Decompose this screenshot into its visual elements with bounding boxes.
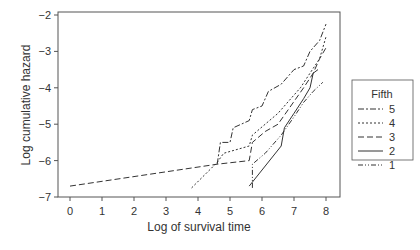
legend-label-1: 1: [389, 159, 395, 171]
y-tick-label: −2: [38, 9, 51, 21]
x-tick-label: 7: [291, 205, 297, 217]
series-line-3: [70, 48, 326, 186]
x-tick-label: 5: [227, 205, 233, 217]
x-tick-label: 4: [195, 205, 201, 217]
x-tick-label: 3: [163, 205, 169, 217]
plot-frame: [58, 12, 340, 197]
legend-label-4: 4: [389, 117, 395, 129]
km-log-log-chart: 012345678 −7−6−5−4−3−2 Log of survival t…: [0, 0, 420, 250]
y-tick-label: −4: [38, 82, 51, 94]
x-tick-label: 1: [99, 205, 105, 217]
legend-title: Fifth: [371, 88, 392, 100]
legend: Fifth 54321: [352, 80, 413, 171]
x-tick-label: 8: [323, 205, 329, 217]
series-line-5: [217, 24, 326, 164]
x-axis: 012345678: [67, 197, 329, 217]
x-tick-label: 2: [131, 205, 137, 217]
y-tick-label: −5: [38, 118, 51, 130]
x-axis-label: Log of survival time: [147, 220, 251, 234]
legend-label-2: 2: [389, 145, 395, 157]
y-tick-label: −6: [38, 155, 51, 167]
y-tick-label: −7: [38, 191, 51, 203]
plot-area: [58, 12, 340, 197]
y-tick-label: −3: [38, 45, 51, 57]
x-tick-label: 0: [67, 205, 73, 217]
y-axis: −7−6−5−4−3−2: [38, 9, 58, 203]
legend-label-3: 3: [389, 131, 395, 143]
legend-label-5: 5: [389, 103, 395, 115]
series-line-1: [252, 82, 322, 188]
series-lines: [70, 24, 326, 188]
y-axis-label: Log cumulative hazard: [19, 45, 33, 166]
series-line-4: [192, 37, 326, 188]
x-tick-label: 6: [259, 205, 265, 217]
series-line-2: [249, 70, 318, 187]
